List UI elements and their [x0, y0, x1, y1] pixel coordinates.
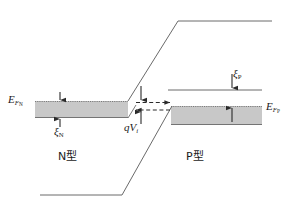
label-p-type-region: P型	[186, 151, 204, 162]
xi-p-subscript: P	[238, 73, 242, 80]
label-e-fn: EFN	[8, 94, 23, 107]
e-fp-symbol: E	[266, 100, 273, 112]
e-fn-symbol: E	[8, 93, 15, 105]
e-fp-subscript-2: P	[277, 108, 280, 114]
conduction-band-edge-line	[128, 21, 272, 101]
carrier-flow-dashed-arrow	[136, 103, 170, 111]
xi-n-subscript: N	[59, 131, 64, 138]
label-e-fp: EFP	[266, 101, 280, 114]
n-band-slope-connector	[128, 105, 136, 118]
e-fn-subscript-2: N	[19, 101, 23, 107]
band-diagram-canvas	[0, 0, 292, 210]
label-n-type-region: N型	[58, 151, 77, 162]
label-xi-n: ξN	[54, 126, 64, 139]
band-diagram-figure: EFN ξN qVi ξP EFP N型 P型	[0, 0, 292, 210]
label-xi-p: ξP	[233, 68, 242, 81]
p-side-fermi-band	[171, 106, 262, 125]
n-side-fermi-band	[35, 101, 128, 118]
label-qvi: qVi	[124, 122, 138, 135]
qvi-subscript: i	[136, 127, 138, 134]
